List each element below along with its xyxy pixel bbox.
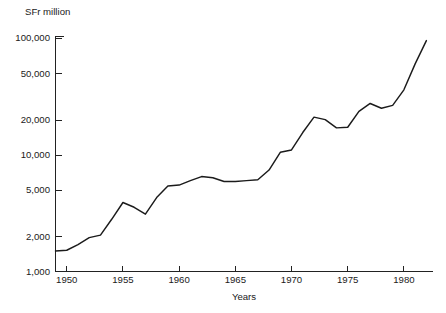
x-axis-tick-label: 1960 <box>168 274 189 285</box>
x-axis-tick-marks <box>67 266 404 272</box>
x-axis-tick-label: 1955 <box>112 274 133 285</box>
chart-canvas: SFr million 1,0002,0005,00010,00020,0005… <box>0 0 446 313</box>
x-axis-tick-label: 1965 <box>225 274 246 285</box>
x-axis-tick-label: 1975 <box>337 274 358 285</box>
data-series-line <box>56 41 427 251</box>
y-axis-tick-label: 100,000 <box>15 32 50 43</box>
x-axis-tick-labels: 1950195519601965197019751980 <box>56 274 415 285</box>
x-axis-title: Years <box>232 291 256 302</box>
y-axis-tick-label: 5,000 <box>26 184 50 195</box>
y-axis-tick-label: 20,000 <box>21 114 50 125</box>
y-axis-unit-label: SFr million <box>25 6 70 17</box>
y-axis-tick-label: 2,000 <box>26 231 50 242</box>
y-axis-tick-labels: 1,0002,0005,00010,00020,00050,000100,000 <box>15 32 50 277</box>
y-axis-tick-marks <box>56 39 63 237</box>
y-axis-tick-label: 50,000 <box>21 68 50 79</box>
y-axis-tick-label: 1,000 <box>26 266 50 277</box>
y-axis-tick-label: 10,000 <box>21 149 50 160</box>
x-axis-tick-label: 1950 <box>56 274 77 285</box>
log-line-chart: SFr million 1,0002,0005,00010,00020,0005… <box>0 0 446 313</box>
x-axis-tick-label: 1980 <box>393 274 414 285</box>
x-axis-tick-label: 1970 <box>281 274 302 285</box>
